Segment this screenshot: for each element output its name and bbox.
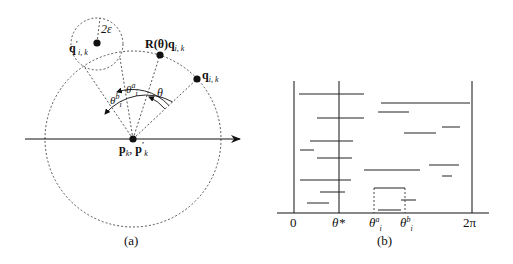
tick-theta-star-text: θ* (332, 215, 345, 230)
theta-a-sub: i (135, 89, 137, 98)
epsilon-radius-line (97, 18, 100, 43)
center-label: pk, p′k (119, 143, 148, 155)
q-label: qi, k (202, 69, 218, 81)
epsilon-text: 2ε (101, 22, 112, 36)
epsilon-label: 2ε (101, 23, 112, 35)
tick-theta-star: θ* (332, 216, 345, 229)
center-main2: p (135, 142, 142, 156)
q-point (193, 75, 200, 82)
tick-zero: 0 (290, 216, 297, 229)
q-sub: i, k (209, 75, 219, 84)
q-prime-main: q (69, 41, 76, 55)
center-main: p (119, 142, 126, 156)
tick-two-pi: 2π (463, 216, 476, 229)
tick-theta-a-sup: a (375, 215, 379, 224)
panel-b-caption-text: (b) (377, 233, 392, 248)
panel-a-caption-text: (a) (124, 233, 138, 248)
interval-segments (299, 94, 470, 210)
tick-theta-a-sub: i (379, 224, 381, 233)
theta-a-label: θai (126, 84, 138, 95)
panel-a-caption: (a) (124, 234, 138, 247)
theta-label: θ (157, 87, 163, 99)
panel-b-caption: (b) (377, 234, 392, 247)
tick-theta-b-sub: i (410, 224, 412, 233)
tick-two-pi-text: 2π (463, 215, 476, 230)
panel-a (25, 18, 240, 227)
q-main: q (202, 68, 209, 82)
tick-theta-b-sup: b (406, 215, 410, 224)
tick-theta-a: θai (369, 216, 382, 229)
rotated-q-main: R(θ)q (145, 37, 175, 51)
rotated-q-label: R(θ)qi, k (145, 38, 184, 50)
tick-theta-b: θbi (400, 216, 413, 229)
q-prime-point (93, 39, 100, 46)
rotated-q-sub: i, k (175, 44, 185, 53)
theta-b-label: θbi (110, 95, 122, 106)
rotated-q-point (156, 51, 163, 58)
theta-text: θ (157, 86, 163, 100)
ray-to-q-prime-left (85, 68, 133, 139)
q-prime-label: q′i, k (69, 42, 88, 54)
q-prime-sub: i, k (78, 48, 88, 57)
panel-b (277, 81, 489, 213)
theta-b-sub: i (119, 100, 121, 109)
center-sub2: k (144, 149, 148, 158)
tick-zero-text: 0 (290, 215, 297, 230)
